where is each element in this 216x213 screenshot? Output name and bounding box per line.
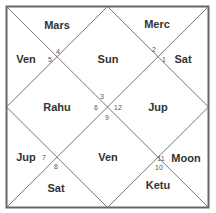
house-5-sign-number: 11 [157, 155, 164, 162]
house-6-planets: Ketu [146, 179, 170, 191]
house-4-planets: Jup [148, 101, 168, 113]
house-4-sign-number: 12 [114, 104, 122, 111]
house-1-planets: Sun [98, 53, 119, 65]
house-5-planets: Moon [171, 152, 200, 164]
house-8-planets: Sat [47, 182, 64, 194]
house-7-sign-number: 9 [105, 114, 109, 121]
house-12-sign-number: 4 [56, 48, 60, 55]
house-10-planets: Rahu [43, 101, 71, 113]
house-11-sign-number: 5 [48, 56, 52, 63]
house-3-planets: Sat [174, 53, 191, 65]
house-3-sign-number: 1 [162, 56, 166, 63]
house-9-sign-number: 7 [42, 154, 46, 161]
house-12-planets: Mars [44, 19, 70, 31]
house-7-planets: Ven [98, 151, 118, 163]
house-11-planets: Ven [16, 53, 36, 65]
house-9-planets: Jup [16, 151, 36, 163]
house-6-sign-number: 10 [155, 164, 163, 171]
house-2-planets: Merc [144, 18, 170, 30]
house-8-sign-number: 8 [54, 163, 58, 170]
house-10-sign-number: 6 [94, 104, 98, 111]
birth-chart-diagram [0, 0, 216, 213]
house-1-sign-number: 3 [100, 93, 104, 100]
house-2-sign-number: 2 [152, 46, 156, 53]
